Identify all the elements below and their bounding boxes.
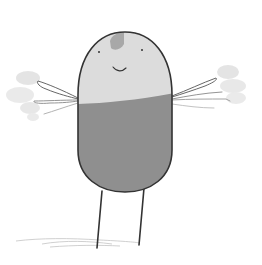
left-eye <box>98 51 100 53</box>
right-eye <box>141 49 143 51</box>
body-lower-half <box>70 92 180 200</box>
left-arm <box>34 81 78 114</box>
character-illustration <box>0 0 262 265</box>
right-hand-smudge <box>217 65 246 104</box>
left-leg <box>97 191 102 248</box>
legs <box>97 188 144 248</box>
right-arm <box>172 78 230 108</box>
left-hand-smudge <box>6 71 40 121</box>
right-leg <box>139 188 144 245</box>
ground-shadow <box>16 239 140 247</box>
